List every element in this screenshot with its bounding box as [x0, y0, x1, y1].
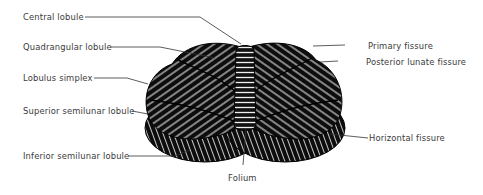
cerebellum-illustration: [0, 0, 483, 195]
label-central-lobule: Central lobule: [23, 12, 84, 22]
label-lobulus-simplex: Lobulus simplex: [23, 73, 93, 83]
label-primary-fissure: Primary fissure: [368, 41, 433, 51]
cerebellum-diagram: Central lobule Quadrangular lobule Lobul…: [0, 0, 483, 195]
label-inferior-semilunar-lobule: Inferior semilunar lobule: [23, 151, 129, 161]
label-horizontal-fissure: Horizontal fissure: [369, 133, 445, 143]
vermis: [234, 46, 256, 131]
label-folium: Folium: [228, 173, 257, 183]
label-superior-semilunar-lobule: Superior semilunar lobule: [23, 106, 135, 116]
label-quadrangular-lobule: Quadrangular lobule: [23, 42, 112, 52]
label-posterior-lunate-fissure: Posterior lunate fissure: [366, 57, 466, 67]
